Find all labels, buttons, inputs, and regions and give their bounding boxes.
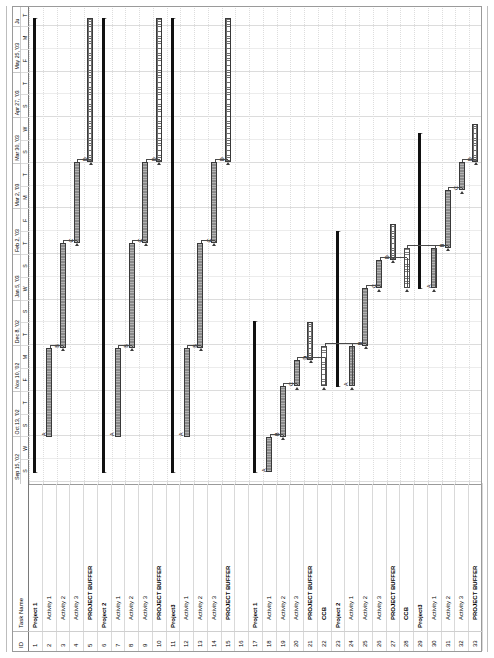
table-row[interactable]: 1Project 1	[29, 483, 43, 651]
gantt-bar-summary[interactable]	[33, 18, 36, 472]
table-row[interactable]: 26Activity 3	[373, 483, 387, 651]
row-task-name[interactable]: Project 2	[332, 483, 346, 631]
gantt-bar-summary[interactable]	[336, 231, 339, 386]
gantt-bar-task[interactable]	[60, 243, 66, 348]
gantt-bar-task[interactable]	[184, 348, 190, 436]
gantt-bar-task[interactable]	[376, 260, 382, 289]
table-row[interactable]: 6Project 2	[98, 483, 112, 651]
row-task-name[interactable]: PROJECT BUFFER	[387, 483, 401, 631]
gantt-bar-task[interactable]	[115, 348, 121, 436]
gantt-bar-summary[interactable]	[171, 18, 174, 472]
gantt-bar-task[interactable]	[142, 162, 148, 243]
row-task-name[interactable]: Activity 2	[194, 483, 208, 631]
column-header-name[interactable]: Task Name	[13, 483, 29, 631]
row-task-name[interactable]: Activity 2	[125, 483, 139, 631]
row-task-name[interactable]: Project 1	[29, 483, 43, 631]
row-task-name[interactable]: Activity 2	[57, 483, 71, 631]
gantt-chart-area[interactable]: Sep 15, '02Oct 13, '02Nov 10, '02Dec 8, …	[12, 6, 482, 484]
row-task-name[interactable]: CCB	[400, 483, 414, 631]
timescale-minor-row[interactable]: SWSTFMTSWSTFMTSWSTFMT	[21, 6, 29, 484]
table-row[interactable]: 15PROJECT BUFFER	[222, 483, 236, 651]
row-task-name[interactable]: PROJECT BUFFER	[222, 483, 236, 631]
table-row[interactable]: 18Activity 1	[263, 483, 277, 651]
table-row[interactable]: 20Activity 3	[290, 483, 304, 651]
row-task-name[interactable]: Activity 3	[70, 483, 84, 631]
gantt-bar-pbuf[interactable]	[472, 124, 478, 162]
row-task-name[interactable]	[235, 483, 249, 631]
row-task-name[interactable]: CCB	[318, 483, 332, 631]
table-row[interactable]: 23Project 2	[332, 483, 346, 651]
gantt-bar-summary[interactable]	[418, 133, 421, 288]
table-row[interactable]: 22CCB	[318, 483, 332, 651]
gantt-bar-task[interactable]	[362, 288, 368, 345]
row-task-name[interactable]: Activity 1	[345, 483, 359, 631]
gantt-bar-task[interactable]	[266, 437, 272, 473]
table-row[interactable]: 32Activity 3	[455, 483, 469, 651]
table-row[interactable]: 8Activity 2	[125, 483, 139, 651]
gantt-bar-task[interactable]	[280, 386, 286, 436]
gantt-bar-pbuf[interactable]	[225, 18, 231, 161]
gantt-bar-summary[interactable]	[253, 322, 256, 473]
table-row[interactable]: 2Activity 1	[43, 483, 57, 651]
table-row[interactable]: 16	[235, 483, 249, 651]
table-row[interactable]: 12Activity 1	[180, 483, 194, 651]
row-task-name[interactable]: Activity 1	[43, 483, 57, 631]
table-row[interactable]: 24Activity 1	[345, 483, 359, 651]
gantt-bar-pbuf[interactable]	[87, 18, 93, 161]
row-task-name[interactable]: PROJECT BUFFER	[153, 483, 167, 631]
table-row[interactable]: 14Activity 3	[208, 483, 222, 651]
table-row[interactable]: 3Activity 2	[57, 483, 71, 651]
row-task-name[interactable]: Activity 2	[442, 483, 456, 631]
table-row[interactable]: 30Activity 1	[428, 483, 442, 651]
row-task-name[interactable]: Activity 3	[373, 483, 387, 631]
table-row[interactable]: 19Activity 2	[277, 483, 291, 651]
row-task-name[interactable]: Project3	[167, 483, 181, 631]
table-row[interactable]: 27PROJECT BUFFER	[387, 483, 401, 651]
gantt-bar-task[interactable]	[129, 243, 135, 348]
row-task-name[interactable]: PROJECT BUFFER	[304, 483, 318, 631]
timescale-major-row[interactable]: Sep 15, '02Oct 13, '02Nov 10, '02Dec 8, …	[13, 6, 21, 484]
column-header-id[interactable]: ID	[13, 631, 29, 651]
table-row[interactable]: 9Activity 3	[139, 483, 153, 651]
table-row[interactable]: 4Activity 3	[70, 483, 84, 651]
row-task-name[interactable]: Activity 3	[139, 483, 153, 631]
table-row[interactable]: 17Project 1	[249, 483, 263, 651]
gantt-bar-task[interactable]	[459, 162, 465, 191]
table-row[interactable]: 31Activity 2	[442, 483, 456, 651]
table-row[interactable]: 13Activity 2	[194, 483, 208, 651]
row-task-name[interactable]: Activity 2	[359, 483, 373, 631]
row-task-name[interactable]: Activity 1	[112, 483, 126, 631]
row-task-name[interactable]: PROJECT BUFFER	[84, 483, 98, 631]
gantt-bar-pbuf[interactable]	[390, 224, 396, 260]
row-task-name[interactable]: Project3	[414, 483, 428, 631]
row-task-name[interactable]: Activity 1	[180, 483, 194, 631]
row-task-name[interactable]: Activity 3	[208, 483, 222, 631]
gantt-bar-task[interactable]	[197, 243, 203, 348]
gantt-bar-task[interactable]	[46, 348, 52, 436]
table-row[interactable]: 33PROJECT BUFFER	[469, 483, 483, 651]
gantt-bar-task[interactable]	[211, 162, 217, 243]
grid-hline	[125, 6, 126, 484]
gantt-bar-pbuf[interactable]	[307, 322, 313, 360]
table-row[interactable]: 25Activity 2	[359, 483, 373, 651]
task-table[interactable]: ID Task Name 1Project 12Activity 13Activ…	[12, 484, 482, 652]
gantt-bar-task[interactable]	[74, 162, 80, 243]
row-task-name[interactable]: PROJECT BUFFER	[469, 483, 483, 631]
table-row[interactable]: 29Project3	[414, 483, 428, 651]
row-task-name[interactable]: Activity 1	[263, 483, 277, 631]
row-task-name[interactable]: Project 1	[249, 483, 263, 631]
gantt-bar-task[interactable]	[445, 190, 451, 247]
row-task-name[interactable]: Project 2	[98, 483, 112, 631]
gantt-bar-summary[interactable]	[102, 18, 105, 472]
row-task-name[interactable]: Activity 3	[290, 483, 304, 631]
table-row[interactable]: 28CCB	[400, 483, 414, 651]
gantt-bar-pbuf[interactable]	[156, 18, 162, 161]
row-task-name[interactable]: Activity 1	[428, 483, 442, 631]
table-row[interactable]: 11Project3	[167, 483, 181, 651]
table-row[interactable]: 21PROJECT BUFFER	[304, 483, 318, 651]
row-task-name[interactable]: Activity 2	[277, 483, 291, 631]
table-row[interactable]: 7Activity 1	[112, 483, 126, 651]
table-row[interactable]: 10PROJECT BUFFER	[153, 483, 167, 651]
table-row[interactable]: 5PROJECT BUFFER	[84, 483, 98, 651]
row-task-name[interactable]: Activity 3	[455, 483, 469, 631]
